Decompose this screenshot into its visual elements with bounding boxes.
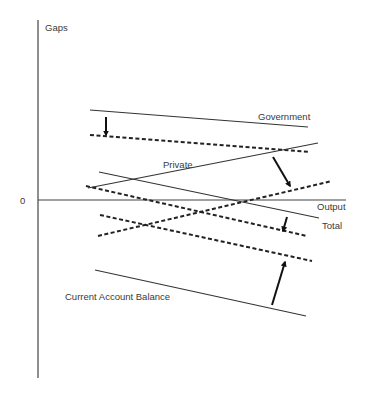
private-shift-arrow-icon [273, 157, 290, 186]
current-account-shift-arrow-icon [272, 262, 285, 305]
government-label: Government [258, 111, 311, 122]
gaps-diagram: Gaps 0 Output Government Private Total C… [0, 0, 367, 396]
private-shifted-line [98, 181, 332, 236]
total-label: Total [322, 220, 342, 231]
total-shift-arrow-icon [283, 217, 287, 231]
government-shifted-line [90, 135, 310, 152]
origin-label: 0 [20, 195, 25, 206]
total-shifted-line [86, 186, 307, 236]
x-axis-label: Output [317, 201, 346, 212]
current-account-label: Current Account Balance [65, 291, 170, 302]
y-axis-label: Gaps [45, 22, 68, 33]
current-account-shifted-line [100, 215, 312, 261]
private-line [88, 143, 318, 188]
private-label: Private [163, 159, 193, 170]
